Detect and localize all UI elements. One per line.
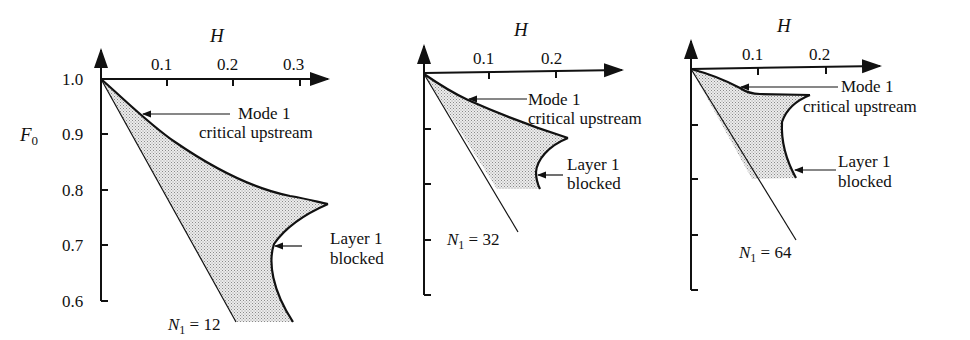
y-tick-label: 0.9 xyxy=(62,125,83,144)
mode1-label: Mode 1 xyxy=(238,104,290,123)
n1-label: N1 = 12 xyxy=(167,315,220,337)
stable-region-fill xyxy=(691,69,810,179)
x-axis-title: H xyxy=(209,25,225,46)
critical-upstream-label: critical upstream xyxy=(528,109,642,128)
y-tick-label: 0.8 xyxy=(62,181,83,200)
y-tick-label: 1.0 xyxy=(62,70,83,89)
x-tick-label: 0.2 xyxy=(809,45,830,64)
y-tick-label: 0.7 xyxy=(62,236,84,255)
blocked-label: blocked xyxy=(567,174,621,193)
x-tick-label: 0.3 xyxy=(283,55,304,74)
layer1-label: Layer 1 xyxy=(567,155,619,174)
x-axis xyxy=(691,66,880,69)
n1-label: N1 = 32 xyxy=(446,230,499,252)
figure-canvas: H F0 0.1 0.2 0.3 1.0 0.9 0.8 0.7 0.6 Mod… xyxy=(0,0,970,340)
critical-upstream-label: critical upstream xyxy=(803,97,917,116)
x-axis-title: H xyxy=(513,19,529,40)
blocked-label: blocked xyxy=(838,172,892,191)
panel-1: H F0 0.1 0.2 0.3 1.0 0.9 0.8 0.7 0.6 Mod… xyxy=(19,25,384,337)
n1-label: N1 = 64 xyxy=(738,243,792,265)
y-tick-label: 0.6 xyxy=(62,292,83,311)
y-axis-title: F0 xyxy=(19,124,38,148)
mode1-label: Mode 1 xyxy=(841,77,893,96)
critical-upstream-label: critical upstream xyxy=(199,123,313,142)
x-axis xyxy=(424,70,622,73)
x-tick-label: 0.2 xyxy=(541,49,562,68)
x-tick-label: 0.1 xyxy=(151,55,172,74)
mode1-label: Mode 1 xyxy=(528,90,580,109)
x-axis-title: H xyxy=(776,15,792,36)
x-tick-label: 0.1 xyxy=(742,45,763,64)
stable-region-fill xyxy=(101,79,328,322)
layer1-label: Layer 1 xyxy=(838,152,890,171)
layer1-label: Layer 1 xyxy=(330,229,382,248)
x-tick-label: 0.1 xyxy=(473,49,494,68)
panel-3: H 0.1 0.2 Mode 1 critical upstream Layer… xyxy=(691,15,917,290)
x-tick-label: 0.2 xyxy=(217,55,238,74)
panel-2: H 0.1 0.2 Mode 1 critical upstream Layer… xyxy=(424,19,642,295)
blocked-label: blocked xyxy=(330,249,384,268)
